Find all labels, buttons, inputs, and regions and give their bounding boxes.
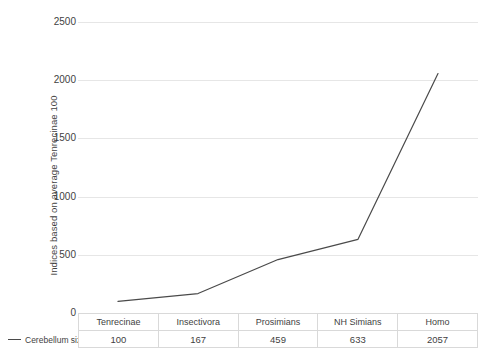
series-layer	[78, 0, 478, 359]
table-row: 1001674596332057	[79, 331, 478, 348]
table-header-cell: Insectivora	[158, 314, 238, 331]
table-value-cell: 167	[158, 331, 238, 348]
table-header-cell: Homo	[398, 314, 478, 331]
table-value-cell: 100	[79, 331, 159, 348]
plot-area	[78, 0, 478, 359]
series-line-cerebellum-size	[118, 74, 438, 302]
chart-legend: Cerebellum size	[8, 331, 86, 348]
table-header-cell: NH Simians	[318, 314, 398, 331]
table-header-row: TenrecinaeInsectivoraProsimiansNH Simian…	[79, 314, 478, 331]
y-axis-tick-labels: 05001000150020002500	[34, 0, 76, 359]
y-axis-tick-1000: 1000	[36, 192, 76, 202]
table-value-cell: 2057	[398, 331, 478, 348]
y-axis-tick-0: 0	[36, 308, 76, 318]
table-value-cell: 459	[238, 331, 318, 348]
y-axis-tick-2000: 2000	[36, 75, 76, 85]
table-value-cell: 633	[318, 331, 398, 348]
data-table: TenrecinaeInsectivoraProsimiansNH Simian…	[78, 313, 478, 348]
y-axis-tick-1500: 1500	[36, 133, 76, 143]
legend-label-cerebellum-size: Cerebellum size	[25, 335, 86, 345]
y-axis-tick-500: 500	[36, 250, 76, 260]
table-header-cell: Prosimians	[238, 314, 318, 331]
line-chart: Indices based on average Tenrecinae 100 …	[0, 0, 488, 359]
y-axis-tick-2500: 2500	[36, 17, 76, 27]
legend-line-icon	[8, 339, 21, 340]
table-header-cell: Tenrecinae	[79, 314, 159, 331]
